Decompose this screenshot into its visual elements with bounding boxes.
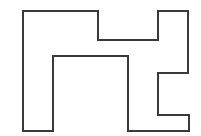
figure-canvas xyxy=(0,0,201,136)
rectilinear-polygon-outline xyxy=(23,11,189,131)
polygon-figure xyxy=(0,0,201,136)
